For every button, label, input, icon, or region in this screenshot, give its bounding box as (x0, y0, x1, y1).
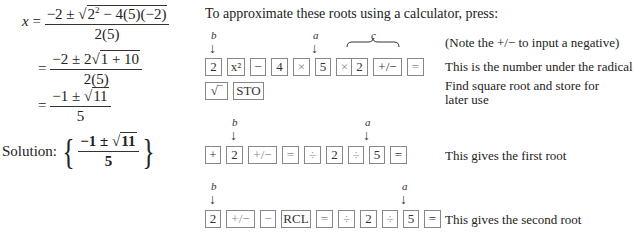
numerator-text: −2 ± (47, 6, 79, 22)
variable-x: x (22, 13, 29, 29)
key-minus[interactable]: − (250, 58, 266, 76)
equation-line-1: x = −2 ± √22 − 4(5)(−2) 2(5) (22, 2, 169, 43)
radicand: 22 − 4(5)(−2) (87, 5, 168, 22)
fraction: −2 ± √22 − 4(5)(−2) 2(5) (45, 2, 170, 43)
label-b: b (211, 29, 217, 41)
key-plus-minus[interactable]: +/− (373, 58, 402, 76)
numerator-text: −1 ± (52, 88, 84, 104)
down-arrow-icon: ↓ (209, 42, 216, 56)
key-plus-minus[interactable]: +/− (248, 146, 277, 164)
denominator: 2(5) (95, 25, 120, 43)
key-plus-minus[interactable]: +/− (226, 210, 255, 228)
key-2[interactable]: 2 (351, 58, 368, 76)
note-store: Find square root and store for later use (445, 79, 615, 107)
numerator: −2 ± 2√1 + 10 (50, 51, 142, 70)
solution-set: Solution: { −1 ± √11 5 } (2, 133, 157, 170)
intro-text: To approximate these roots using a calcu… (205, 6, 498, 22)
key-5[interactable]: 5 (315, 58, 331, 76)
label-a: a (313, 29, 319, 41)
sqrt-icon: √ (91, 51, 99, 67)
equals-sign: = (38, 97, 46, 113)
note-first-root: This gives the first root (445, 148, 566, 164)
down-arrow-icon: ↓ (230, 129, 237, 143)
sqrt-icon: √ (78, 6, 86, 22)
key-plus[interactable]: + (205, 146, 221, 164)
denominator: 5 (77, 107, 85, 125)
key-equals[interactable]: = (282, 146, 299, 164)
key-2[interactable]: 2 (205, 210, 221, 228)
equals-sign: = (38, 60, 46, 76)
numerator: −1 ± √11 (50, 88, 110, 107)
fraction: −1 ± √11 5 (78, 133, 138, 170)
radicand: 1 + 10 (100, 50, 140, 67)
key-sqrt[interactable]: √‾ (205, 82, 228, 100)
down-arrow-icon: ↓ (363, 129, 370, 143)
key-divide[interactable]: ÷ (304, 146, 321, 164)
key-2[interactable]: 2 (326, 146, 343, 164)
fraction: −2 ± 2√1 + 10 2(5) (50, 51, 142, 88)
fraction: −1 ± √11 5 (50, 88, 110, 125)
note-second-root: This gives the second root (445, 212, 581, 228)
label-a: a (365, 116, 371, 128)
key-equals[interactable]: = (424, 210, 441, 228)
key-5[interactable]: 5 (369, 146, 385, 164)
key-sto[interactable]: STO (233, 82, 264, 100)
key-divide[interactable]: ÷ (338, 210, 355, 228)
key-x-squared[interactable]: x² (227, 58, 245, 76)
key-5[interactable]: 5 (403, 210, 419, 228)
key-multiply[interactable]: × (293, 58, 310, 76)
equals-sign: = (32, 13, 44, 29)
key-equals[interactable]: = (390, 146, 407, 164)
label-b: b (232, 116, 238, 128)
sqrt-icon: √ (84, 88, 92, 104)
numerator-text: −2 ± 2 (52, 51, 91, 67)
label-a: a (402, 180, 408, 192)
equation-line-2: = −2 ± 2√1 + 10 2(5) (38, 51, 142, 88)
key-divide[interactable]: ÷ (382, 210, 398, 228)
equation-line-3: = −1 ± √11 5 (38, 88, 111, 125)
solution-label: Solution: (2, 143, 57, 160)
down-arrow-icon: ↓ (209, 193, 216, 207)
key-equals[interactable]: = (316, 210, 333, 228)
numerator: −1 ± √11 (78, 133, 138, 152)
down-arrow-icon: ↓ (400, 193, 407, 207)
left-brace-icon: { (63, 134, 75, 170)
key-rcl[interactable]: RCL (281, 210, 311, 228)
note-negative: (Note the +/− to input a negative) (445, 35, 619, 51)
overbrace-icon (346, 38, 400, 48)
numerator-text: −1 ± (80, 133, 112, 149)
radicand: 11 (120, 132, 136, 149)
key-2[interactable]: 2 (226, 146, 243, 164)
denominator: 5 (105, 152, 113, 170)
key-divide[interactable]: ÷ (348, 146, 364, 164)
right-brace-icon: } (142, 134, 154, 170)
key-equals[interactable]: = (407, 58, 424, 76)
denominator: 2(5) (84, 70, 109, 88)
note-radicand: This is the number under the radical (445, 59, 633, 75)
label-b: b (211, 180, 217, 192)
key-2[interactable]: 2 (205, 58, 222, 76)
down-arrow-icon: ↓ (311, 42, 318, 56)
key-2[interactable]: 2 (360, 210, 377, 228)
radicand: 11 (92, 87, 108, 104)
key-minus[interactable]: − (260, 210, 276, 228)
numerator: −2 ± √22 − 4(5)(−2) (45, 2, 170, 25)
key-4[interactable]: 4 (271, 58, 288, 76)
